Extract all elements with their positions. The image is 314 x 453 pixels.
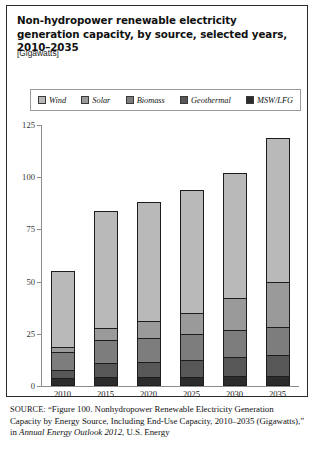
bar-segment-2020-biomass bbox=[137, 338, 161, 362]
bar-segment-2035-solar bbox=[266, 282, 290, 327]
bar-2035 bbox=[266, 138, 290, 386]
bar-segment-2010-biomass bbox=[51, 352, 75, 371]
bar-segment-2035-msw-lfg bbox=[266, 376, 290, 386]
x-tick-label-2020: 2020 bbox=[129, 389, 169, 399]
bar-segment-2030-biomass bbox=[223, 330, 247, 358]
x-tick-label-2030: 2030 bbox=[215, 389, 255, 399]
bar-segment-2015-biomass bbox=[94, 340, 118, 363]
bar-segment-2015-wind bbox=[94, 211, 118, 328]
y-tick-label-125: 125 bbox=[9, 120, 35, 130]
bar-segment-2025-biomass bbox=[180, 334, 204, 360]
bar-2020 bbox=[137, 202, 161, 386]
bar-segment-2030-geothermal bbox=[223, 357, 247, 376]
bar-2010 bbox=[51, 271, 75, 386]
y-tick-label-75: 75 bbox=[9, 224, 35, 234]
bar-segment-2010-geothermal bbox=[51, 370, 75, 377]
y-tick-label-100: 100 bbox=[9, 172, 35, 182]
bar-segment-2025-solar bbox=[180, 313, 204, 334]
bar-segment-2020-geothermal bbox=[137, 362, 161, 377]
y-tick-label-0: 0 bbox=[9, 381, 35, 391]
figure-page: Non-hydropower renewable electricity gen… bbox=[0, 0, 314, 453]
source-text-2: , U.S. Energy bbox=[122, 427, 170, 437]
figure-container: Non-hydropower renewable electricity gen… bbox=[6, 5, 308, 397]
source-label: SOURCE: bbox=[10, 405, 46, 414]
bar-segment-2015-geothermal bbox=[94, 363, 118, 377]
plot-area: 0255075100125 201020152020202520302035 bbox=[7, 6, 309, 398]
y-tick-mark-0 bbox=[37, 386, 41, 387]
bar-segment-2030-wind bbox=[223, 173, 247, 298]
bar-2025 bbox=[180, 190, 204, 386]
bar-segment-2020-msw-lfg bbox=[137, 377, 161, 386]
bar-segment-2020-solar bbox=[137, 321, 161, 338]
source-publication: Annual Energy Outlook 2012 bbox=[19, 427, 122, 437]
bar-segment-2030-solar bbox=[223, 298, 247, 329]
bar-segment-2035-wind bbox=[266, 138, 290, 282]
bar-segment-2025-msw-lfg bbox=[180, 377, 204, 386]
bar-segment-2030-msw-lfg bbox=[223, 376, 247, 386]
x-tick-label-2025: 2025 bbox=[172, 389, 212, 399]
bar-2015 bbox=[94, 211, 118, 386]
x-tick-label-2010: 2010 bbox=[43, 389, 83, 399]
bar-2030 bbox=[223, 173, 247, 386]
bar-segment-2015-solar bbox=[94, 328, 118, 341]
bar-segment-2035-biomass bbox=[266, 327, 290, 355]
bar-segment-2010-wind bbox=[51, 271, 75, 347]
x-tick-label-2035: 2035 bbox=[258, 389, 298, 399]
bar-segment-2035-geothermal bbox=[266, 355, 290, 376]
bar-segment-2015-msw-lfg bbox=[94, 377, 118, 386]
bars-layer bbox=[41, 125, 299, 386]
x-axis-line bbox=[41, 386, 299, 387]
y-tick-label-25: 25 bbox=[9, 329, 35, 339]
bar-segment-2025-wind bbox=[180, 190, 204, 313]
bar-segment-2020-wind bbox=[137, 202, 161, 321]
y-tick-label-50: 50 bbox=[9, 277, 35, 287]
bar-segment-2010-msw-lfg bbox=[51, 378, 75, 386]
source-note: SOURCE: “Figure 100. Nonhydropower Renew… bbox=[10, 404, 306, 439]
x-tick-label-2015: 2015 bbox=[86, 389, 126, 399]
bar-segment-2025-geothermal bbox=[180, 360, 204, 377]
